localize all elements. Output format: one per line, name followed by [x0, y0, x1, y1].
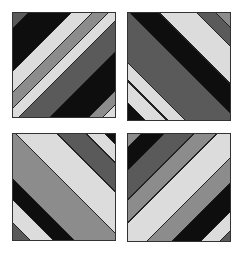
striped-tile-top-right	[127, 12, 231, 121]
striped-tile-bottom-left	[12, 133, 116, 241]
striped-tile-top-left	[12, 12, 116, 118]
striped-tile-bottom-right	[127, 133, 231, 242]
